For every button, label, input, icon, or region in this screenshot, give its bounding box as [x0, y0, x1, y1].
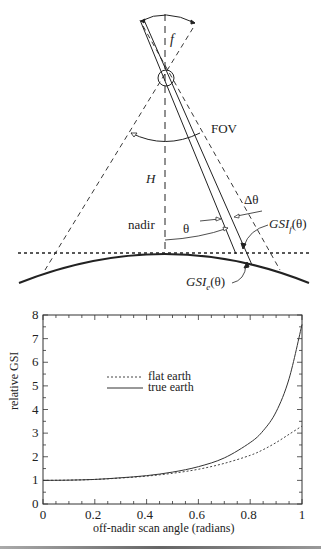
x-tick-label: 0.4	[137, 508, 153, 521]
focal-arc	[141, 15, 195, 23]
x-tick-label: 0	[40, 508, 47, 521]
figure	[0, 0, 321, 554]
y-tick-label: 1	[32, 473, 39, 486]
focal-length-label: f	[170, 33, 174, 47]
scan-geometry-diagram	[18, 14, 310, 283]
y-tick-label: 2	[32, 450, 39, 463]
y-tick-label: 5	[32, 379, 39, 392]
y-tick-label: 4	[32, 403, 39, 416]
gsi-flat-arg: (θ)	[292, 216, 307, 231]
nadir-label: nadir	[128, 218, 155, 231]
y-axis-label: relative GSI	[8, 352, 20, 410]
theta-arc	[165, 228, 228, 240]
scan-ray-2	[144, 20, 252, 265]
y-tick-label: 3	[32, 426, 39, 439]
gsi-flat-text: GSI	[269, 216, 289, 231]
plot-frame	[43, 315, 302, 504]
gsi-earth-text: GSI	[186, 274, 206, 289]
y-tick-label: 7	[32, 332, 39, 345]
legend	[107, 377, 143, 388]
x-tick-label: 1	[299, 508, 306, 521]
true-earth-series	[43, 324, 302, 480]
gsi-chart	[43, 315, 302, 504]
y-tick-label: 8	[32, 308, 39, 321]
y-tick-label: 0	[32, 497, 39, 510]
fov-label: FOV	[211, 122, 237, 135]
gsi-earth-label: GSIe(θ)	[186, 275, 225, 292]
x-tick-label: 0.8	[240, 508, 256, 521]
legend-true-earth: true earth	[148, 381, 194, 393]
x-tick-label: 0.6	[189, 508, 205, 521]
height-label: H	[146, 172, 155, 185]
bottom-divider	[0, 546, 321, 549]
gsi-flat-label: GSIf(θ)	[269, 217, 307, 234]
x-tick-label: 0.2	[85, 508, 101, 521]
theta-label: θ	[183, 222, 189, 235]
gsi-earth-arg: (θ)	[210, 274, 225, 289]
earth-curve	[19, 254, 309, 283]
y-tick-label: 6	[32, 355, 39, 368]
x-axis-label: off-nadir scan angle (radians)	[93, 522, 234, 534]
delta-theta-label: Δθ	[244, 193, 259, 206]
